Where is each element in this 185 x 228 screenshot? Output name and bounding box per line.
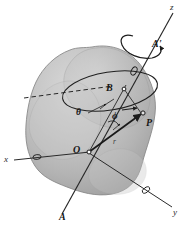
- rigid-body: [26, 46, 156, 195]
- angle-label-theta: θ: [76, 108, 81, 118]
- point-label-B: B: [106, 83, 113, 93]
- axis-label-a-prime: A': [152, 39, 161, 49]
- axis-label-y: y: [173, 208, 177, 217]
- axis-label-z: z: [170, 3, 174, 12]
- axis-label-a: A: [59, 212, 66, 222]
- vector-label-r: r: [113, 138, 116, 146]
- point-P-dot: [141, 111, 145, 115]
- point-B-dot: [122, 87, 126, 91]
- angle-label-phi: ϕ: [112, 112, 118, 122]
- axis-label-x: x: [4, 155, 8, 164]
- point-label-O: O: [73, 145, 80, 155]
- point-O-dot: [87, 150, 91, 154]
- figure-svg: [0, 0, 185, 228]
- point-label-P: P: [146, 118, 152, 128]
- figure-canvas: z x y A' A B O P θ ϕ r: [0, 0, 185, 228]
